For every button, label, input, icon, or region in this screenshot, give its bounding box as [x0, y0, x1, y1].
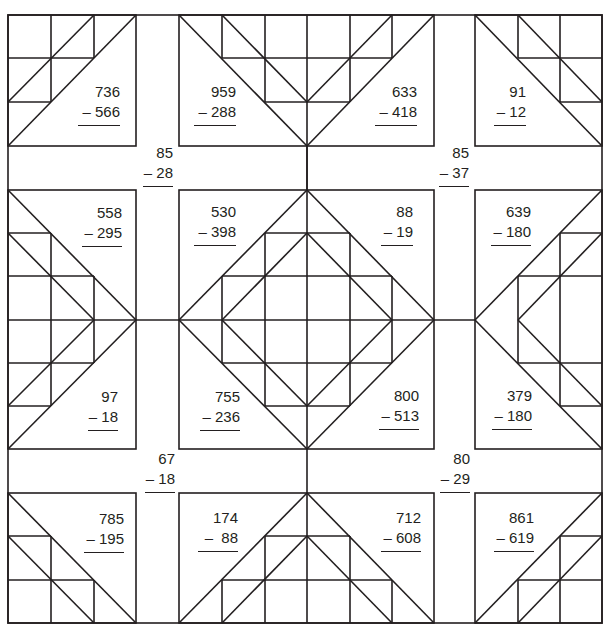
- answer-line: [143, 186, 173, 187]
- subtrahend: – 180: [491, 222, 531, 242]
- minuend: 91: [494, 82, 526, 102]
- answer-line: [375, 125, 417, 126]
- problem-5: 85 – 28: [143, 143, 173, 187]
- answer-line: [198, 551, 238, 552]
- problem-4: 91 – 12: [494, 82, 526, 126]
- minuend: 959: [194, 82, 236, 102]
- minuend: 85: [439, 143, 469, 163]
- minuend: 785: [84, 509, 124, 529]
- answer-line: [440, 492, 470, 493]
- minuend: 85: [143, 143, 173, 163]
- problem-10: 639 – 180: [491, 202, 531, 246]
- subtrahend: – 29: [440, 469, 470, 489]
- subtrahend: – 180: [492, 406, 532, 426]
- problem-13: 800 – 513: [379, 386, 419, 430]
- subtrahend: – 19: [381, 222, 413, 242]
- answer-line: [194, 125, 236, 126]
- subtrahend: – 398: [194, 222, 236, 242]
- answer-line: [78, 125, 120, 126]
- minuend: 755: [200, 387, 240, 407]
- subtrahend: – 18: [88, 407, 118, 427]
- answer-line: [200, 430, 240, 431]
- minuend: 736: [78, 82, 120, 102]
- answer-line: [494, 551, 534, 552]
- problem-19: 712 – 608: [381, 508, 421, 552]
- answer-line: [492, 429, 532, 430]
- answer-line: [381, 245, 413, 246]
- subtrahend: – 195: [84, 529, 124, 549]
- problem-15: 67 – 18: [145, 449, 175, 493]
- problem-11: 97 – 18: [88, 387, 118, 431]
- subtrahend: – 88: [198, 528, 238, 548]
- block-top-left: [8, 15, 136, 146]
- problem-17: 785 – 195: [84, 509, 124, 553]
- problem-2: 959 – 288: [194, 82, 236, 126]
- minuend: 530: [194, 202, 236, 222]
- block-top-right: [475, 15, 602, 146]
- minuend: 633: [375, 82, 417, 102]
- minuend: 174: [198, 508, 238, 528]
- problem-14: 379 – 180: [492, 386, 532, 430]
- minuend: 800: [379, 386, 419, 406]
- subtrahend: – 566: [78, 102, 120, 122]
- minuend: 88: [381, 202, 413, 222]
- subtrahend: – 236: [200, 407, 240, 427]
- subtrahend: – 37: [439, 163, 469, 183]
- minuend: 712: [381, 508, 421, 528]
- answer-line: [84, 552, 124, 553]
- subtrahend: – 28: [143, 163, 173, 183]
- answer-line: [494, 125, 526, 126]
- problem-16: 80 – 29: [440, 449, 470, 493]
- answer-line: [439, 186, 469, 187]
- minuend: 379: [492, 386, 532, 406]
- minuend: 80: [440, 449, 470, 469]
- problem-18: 174 – 88: [198, 508, 238, 552]
- answer-line: [379, 429, 419, 430]
- problem-20: 861 – 619: [494, 508, 534, 552]
- problem-7: 558 – 295: [82, 203, 122, 247]
- problem-1: 736 – 566: [78, 82, 120, 126]
- minuend: 558: [82, 203, 122, 223]
- minuend: 67: [145, 449, 175, 469]
- answer-line: [82, 246, 122, 247]
- subtrahend: – 12: [494, 102, 526, 122]
- answer-line: [194, 245, 236, 246]
- answer-line: [145, 492, 175, 493]
- subtrahend: – 619: [494, 528, 534, 548]
- subtrahend: – 18: [145, 469, 175, 489]
- subtrahend: – 608: [381, 528, 421, 548]
- minuend: 639: [491, 202, 531, 222]
- subtrahend: – 295: [82, 223, 122, 243]
- answer-line: [381, 551, 421, 552]
- answer-line: [491, 245, 531, 246]
- answer-line: [88, 430, 118, 431]
- problem-3: 633 – 418: [375, 82, 417, 126]
- block-center: [179, 146, 475, 493]
- subtrahend: – 513: [379, 406, 419, 426]
- problem-12: 755 – 236: [200, 387, 240, 431]
- minuend: 861: [494, 508, 534, 528]
- problem-9: 88 – 19: [381, 202, 413, 246]
- subtrahend: – 288: [194, 102, 236, 122]
- subtrahend: – 418: [375, 102, 417, 122]
- problem-8: 530 – 398: [194, 202, 236, 246]
- problem-6: 85 – 37: [439, 143, 469, 187]
- minuend: 97: [88, 387, 118, 407]
